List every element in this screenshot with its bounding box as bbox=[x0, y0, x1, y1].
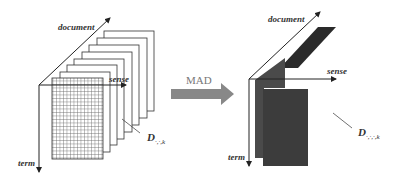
left-axis-label-document: document bbox=[58, 22, 95, 32]
left-slice-label: D·,·,k bbox=[147, 131, 165, 146]
left-axis-label-sense: sense bbox=[109, 74, 129, 84]
right-axis-label-term: term bbox=[228, 152, 245, 162]
term-sense-slab bbox=[263, 89, 308, 166]
right-slice-label: D·,·,·,k bbox=[358, 126, 380, 141]
right-axis-label-sense: sense bbox=[327, 66, 347, 76]
right-axis-label-document: document bbox=[268, 14, 305, 24]
mad-label: MAD bbox=[186, 74, 212, 86]
document-sense-slab bbox=[280, 27, 336, 68]
left-axis-label-term: term bbox=[18, 158, 35, 168]
right-slabs bbox=[255, 27, 336, 166]
left-slice-stack bbox=[52, 31, 154, 159]
front-grid-slice bbox=[52, 78, 103, 159]
mad-arrow bbox=[171, 83, 234, 105]
